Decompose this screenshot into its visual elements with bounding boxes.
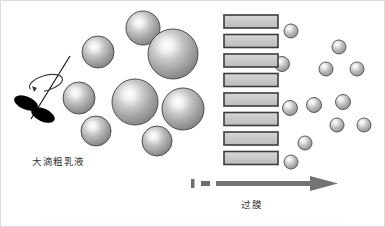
membrane-layer xyxy=(224,54,278,67)
flow-arrow-head xyxy=(310,176,338,191)
coarse-droplet xyxy=(82,36,114,68)
fine-droplet xyxy=(298,136,312,150)
membrane-layers xyxy=(224,15,278,165)
membrane-process-label: 过膜 xyxy=(241,197,262,211)
coarse-droplet xyxy=(148,29,198,79)
flow-arrow xyxy=(191,176,338,191)
membrane-layer xyxy=(224,74,278,87)
fine-droplet xyxy=(284,155,298,169)
coarse-droplet xyxy=(63,82,95,114)
coarse-emulsion-label: 大滴粗乳液 xyxy=(32,154,85,168)
fine-droplet xyxy=(283,101,298,116)
flow-dash-mark xyxy=(191,179,195,188)
membrane-layer xyxy=(224,113,278,126)
flow-arrow-shaft xyxy=(216,181,312,186)
coarse-droplet-cluster xyxy=(63,11,204,156)
fine-droplet xyxy=(330,118,344,132)
membrane-layer xyxy=(224,35,278,48)
bottom-divider xyxy=(41,221,341,222)
membrane-layer xyxy=(224,93,278,106)
fine-droplet xyxy=(336,95,351,110)
fine-droplet xyxy=(307,98,322,113)
membrane-layer xyxy=(224,132,278,145)
fine-droplet xyxy=(319,62,333,76)
membrane-layer xyxy=(224,152,278,165)
fine-droplet xyxy=(350,62,364,76)
fine-droplet xyxy=(357,118,371,132)
rotation-arrow-icon xyxy=(28,71,65,95)
flow-dash-mark xyxy=(201,181,210,186)
emulsion-membrane-diagram xyxy=(1,1,385,227)
coarse-droplet xyxy=(142,126,172,156)
stirrer-impeller xyxy=(12,56,70,126)
figure-canvas: 大滴粗乳液 过膜 xyxy=(0,0,385,227)
coarse-droplet xyxy=(112,79,158,125)
coarse-droplet xyxy=(162,88,204,130)
fine-droplet xyxy=(332,40,346,54)
fine-droplet-cluster xyxy=(283,24,372,169)
membrane-layer xyxy=(224,15,278,28)
coarse-droplet xyxy=(81,116,111,146)
fine-droplet xyxy=(284,24,298,38)
